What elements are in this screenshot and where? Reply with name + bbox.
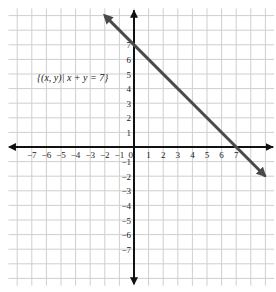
set-builder-annotation: {(x, y)| x + y = 7}	[37, 72, 108, 84]
x-tick-label: 3	[176, 150, 181, 160]
x-tick-label: −3	[85, 150, 95, 160]
x-tick-label: 6	[219, 150, 224, 160]
x-tick-label: 2	[161, 150, 166, 160]
y-tick-label: 5	[127, 70, 132, 80]
y-tick-label: −7	[121, 245, 131, 255]
y-tick-label: 1	[127, 128, 132, 138]
x-tick-label: −5	[56, 150, 66, 160]
x-tick-label: −7	[27, 150, 37, 160]
x-tick-label: 5	[205, 150, 210, 160]
x-tick-label: 1	[146, 150, 151, 160]
y-tick-label: −3	[121, 186, 131, 196]
y-tick-label: 6	[127, 55, 132, 65]
x-tick-label: 7	[234, 150, 239, 160]
coordinate-plane-figure: −7−6−5−4−3−2−11234567 7654321−1−2−3−4−5−…	[0, 0, 276, 292]
y-tick-label: 3	[127, 99, 132, 109]
x-tick-label: −2	[100, 150, 110, 160]
y-tick-label: −5	[121, 216, 131, 226]
y-tick-label: −2	[121, 172, 131, 182]
x-tick-label: 4	[190, 150, 195, 160]
x-tick-label: −4	[71, 150, 81, 160]
y-tick-label: 4	[127, 84, 132, 94]
y-tick-label: −6	[121, 230, 131, 240]
origin-label: 0	[129, 150, 134, 160]
x-tick-label: −6	[42, 150, 52, 160]
graph-canvas: −7−6−5−4−3−2−11234567 7654321−1−2−3−4−5−…	[0, 0, 276, 292]
y-tick-label: −4	[121, 201, 131, 211]
y-tick-label: 2	[127, 113, 132, 123]
